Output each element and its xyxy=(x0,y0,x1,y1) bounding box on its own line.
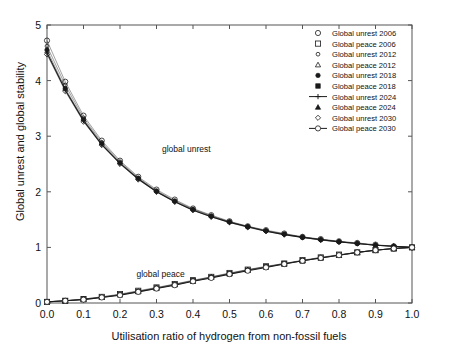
legend-label: Global peace 2018 xyxy=(332,82,396,91)
legend-label: Global unrest 2012 xyxy=(332,50,396,59)
legend-label: Global peace 2006 xyxy=(332,40,396,49)
legend-label: Global unrest 2018 xyxy=(332,71,396,80)
legend-item: Global unrest 2024 xyxy=(309,93,396,102)
series-9 xyxy=(44,245,414,305)
x-tick-label: 0.5 xyxy=(222,308,237,320)
legend-label: Global unrest 2006 xyxy=(332,29,396,38)
y-tick-label: 5 xyxy=(35,19,41,31)
legend: Global unrest 2006Global peace 2006Globa… xyxy=(309,29,396,133)
x-tick-label: 0.8 xyxy=(332,308,347,320)
legend-item: Global unrest 2012 xyxy=(316,50,396,59)
x-tick-label: 0.4 xyxy=(186,308,201,320)
legend-item: Global peace 2012 xyxy=(315,61,395,70)
x-tick-label: 0.2 xyxy=(113,308,128,320)
y-tick-label: 1 xyxy=(35,241,41,253)
legend-item: Global peace 2030 xyxy=(309,124,396,133)
x-tick-label: 1.0 xyxy=(405,308,420,320)
legend-label: Global unrest 2024 xyxy=(332,93,396,102)
x-tick-label: 0.6 xyxy=(259,308,274,320)
x-tick-label: 0.1 xyxy=(76,308,91,320)
y-axis-label: Global unrest and global stability xyxy=(14,0,34,317)
x-axis-label: Utilisation ratio of hydrogen from non-f… xyxy=(45,330,413,342)
y-tick-label: 3 xyxy=(35,130,41,142)
x-tick-label: 0.9 xyxy=(368,308,383,320)
curve-annotation: global unrest xyxy=(162,144,211,154)
x-tick-label: 0.7 xyxy=(295,308,310,320)
curve-annotation: global peace xyxy=(136,269,184,279)
legend-item: Global unrest 2018 xyxy=(316,71,396,80)
legend-label: Global peace 2030 xyxy=(332,124,396,133)
legend-label: Global unrest 2030 xyxy=(332,114,396,123)
y-tick-label: 4 xyxy=(35,75,41,87)
legend-item: Global peace 2024 xyxy=(315,103,395,112)
plot-area: 0.00.10.20.30.40.50.60.70.80.91.0 012345… xyxy=(0,0,459,351)
y-tick-label: 0 xyxy=(35,297,41,309)
y-tick-label: 2 xyxy=(35,186,41,198)
legend-item: Global peace 2006 xyxy=(315,40,395,49)
x-tick-label: 0.3 xyxy=(149,308,164,320)
legend-item: Global unrest 2030 xyxy=(315,114,396,123)
legend-label: Global peace 2012 xyxy=(332,61,396,70)
x-tick-label: 0.0 xyxy=(40,308,55,320)
legend-item: Global unrest 2006 xyxy=(315,29,396,38)
chart-figure: Global unrest and global stability Utili… xyxy=(0,0,459,351)
legend-item: Global peace 2018 xyxy=(316,82,396,91)
legend-label: Global peace 2024 xyxy=(332,103,396,112)
